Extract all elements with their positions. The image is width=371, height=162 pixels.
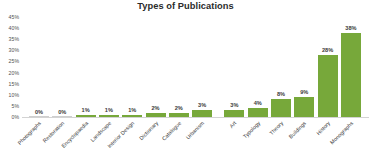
bar-slot: 28% xyxy=(317,17,339,117)
category-label: Monographs xyxy=(329,120,354,145)
y-axis-tick-label: 15% xyxy=(0,81,19,86)
y-axis-tick-label: 30% xyxy=(0,48,19,53)
y-axis-tick-label: 5% xyxy=(0,103,19,108)
y-axis-tick-label: 45% xyxy=(0,15,19,20)
bar-value-label: 1% xyxy=(121,107,143,113)
chart-title: Types of Publications xyxy=(0,1,371,12)
category-label: Buildings xyxy=(288,120,308,140)
bar-value-label: 38% xyxy=(340,25,362,31)
category-label: Catalogue xyxy=(160,120,182,142)
bar[interactable] xyxy=(294,97,314,117)
category-label: Photographs xyxy=(16,120,42,146)
y-axis-tick-label: 35% xyxy=(0,37,19,42)
category-label: Landscape xyxy=(89,120,112,143)
bar-value-label: 2% xyxy=(145,105,167,111)
y-axis-tick-label: 20% xyxy=(0,70,19,75)
category-label: History xyxy=(315,120,331,136)
bar-slot: 2% xyxy=(168,17,190,117)
bar-value-label: 9% xyxy=(293,89,315,95)
bar-slot: 0% xyxy=(51,17,73,117)
category-label: Dictionary xyxy=(138,120,159,141)
bar-value-label: 8% xyxy=(270,91,292,97)
bar-slot: 38% xyxy=(340,17,362,117)
bar-slot: 0% xyxy=(28,17,50,117)
bar-value-label: 28% xyxy=(317,47,339,53)
y-axis-tick-label: 10% xyxy=(0,92,19,97)
bar-value-label: 0% xyxy=(51,109,73,115)
bar-slot: 8% xyxy=(270,17,292,117)
category-axis-line xyxy=(22,117,369,118)
bar-slot: 3% xyxy=(223,17,245,117)
bar-value-label: 3% xyxy=(191,102,213,108)
plot-area: 45%40%35%30%25%20%15%10%5%0%0%0%1%1%1%2%… xyxy=(22,17,369,117)
bar-value-label: 1% xyxy=(75,107,97,113)
bar[interactable] xyxy=(192,110,212,117)
bar-slot: 9% xyxy=(293,17,315,117)
bar-value-label: 4% xyxy=(247,100,269,106)
bar[interactable] xyxy=(318,55,338,117)
category-label: Urbanism xyxy=(185,120,206,141)
bar-value-label: 1% xyxy=(98,107,120,113)
bar-slot: 3% xyxy=(191,17,213,117)
bar-chart: Types of Publications 45%40%35%30%25%20%… xyxy=(0,0,371,162)
bar-slot: 1% xyxy=(75,17,97,117)
bar-value-label: 0% xyxy=(28,109,50,115)
bar[interactable] xyxy=(224,110,244,117)
bar-slot: 1% xyxy=(98,17,120,117)
bar-slot: 1% xyxy=(121,17,143,117)
category-label: Art xyxy=(229,120,238,129)
category-label: Theory xyxy=(268,120,284,136)
bar-slot: 2% xyxy=(145,17,167,117)
y-axis-tick-label: 0% xyxy=(0,115,19,120)
bar[interactable] xyxy=(271,99,291,117)
bar-slot: 4% xyxy=(247,17,269,117)
y-axis-tick-label: 40% xyxy=(0,26,19,31)
y-axis-tick-label: 25% xyxy=(0,59,19,64)
bar-value-label: 2% xyxy=(168,105,190,111)
bar-value-label: 3% xyxy=(223,102,245,108)
bar[interactable] xyxy=(248,108,268,117)
bar[interactable] xyxy=(341,33,361,117)
category-label: Restoration xyxy=(42,120,66,144)
category-label: Typology xyxy=(241,120,261,140)
